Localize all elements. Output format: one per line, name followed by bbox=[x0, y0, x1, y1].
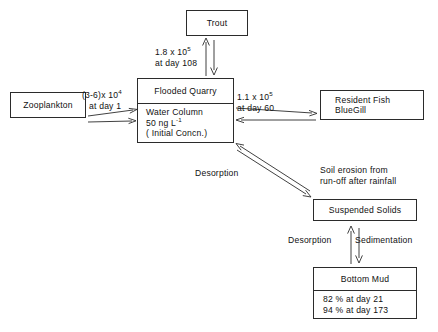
flux-label-trout-day: at day 108 bbox=[155, 58, 197, 69]
node-zooplankton-label: Zooplankton bbox=[11, 93, 85, 117]
flux-label-trout-value: 1.8 x 105 bbox=[155, 47, 197, 58]
node-zooplankton[interactable]: Zooplankton bbox=[10, 92, 86, 118]
flux-label-resident-fish: 1.1 x 105 at day 60 bbox=[237, 92, 274, 114]
flux-trout-prefix: 1.8 x 10 bbox=[155, 47, 187, 57]
node-bottom-mud-header: Bottom Mud bbox=[314, 268, 416, 290]
flux-resident-fish-prefix: 1.1 x 10 bbox=[237, 92, 269, 102]
quarry-body-line-1: Water Column bbox=[146, 107, 203, 117]
flux-trout-exponent: 5 bbox=[187, 45, 191, 52]
flux-label-zooplankton-day: at day 1 bbox=[82, 101, 122, 112]
arrow-zooplankton-to-quarry-lower bbox=[88, 118, 136, 123]
bottom-mud-line-2: 94 % at day 173 bbox=[323, 305, 388, 315]
node-bottom-mud-body: 82 % at day 21 94 % at day 173 bbox=[314, 290, 416, 318]
flux-resident-fish-exponent: 5 bbox=[269, 90, 273, 97]
resident-fish-line-2: BlueGill bbox=[335, 105, 366, 115]
node-resident-fish[interactable]: Resident Fish BlueGill bbox=[320, 90, 424, 120]
node-suspended-solids-label: Suspended Solids bbox=[314, 200, 416, 220]
arrow-trout-to-quarry bbox=[211, 40, 218, 75]
node-flooded-quarry-header: Flooded Quarry bbox=[138, 79, 233, 103]
flux-label-desorption-vertical: Desorption bbox=[288, 235, 332, 246]
arrow-bottom-mud-to-suspended-solids bbox=[348, 226, 355, 264]
node-bottom-mud[interactable]: Bottom Mud 82 % at day 21 94 % at day 17… bbox=[313, 267, 417, 319]
quarry-body-line-2: 50 ng L-1 bbox=[146, 118, 182, 128]
node-trout[interactable]: Trout bbox=[186, 10, 248, 36]
flux-label-resident-fish-value: 1.1 x 105 bbox=[237, 92, 274, 103]
flux-label-sedimentation-vertical: Sedimentation bbox=[355, 235, 413, 246]
flux-label-trout: 1.8 x 105 at day 108 bbox=[155, 47, 197, 69]
resident-fish-line-1: Resident Fish bbox=[335, 95, 390, 105]
arrow-suspended-solids-to-quarry bbox=[236, 144, 310, 192]
soil-erosion-line-1: Soil erosion from bbox=[320, 165, 396, 176]
arrow-resident-fish-to-quarry bbox=[236, 117, 316, 122]
flux-label-desorption-diagonal: Desorption bbox=[195, 168, 239, 179]
quarry-concentration-exponent: -1 bbox=[176, 116, 182, 123]
node-flooded-quarry-body: Water Column 50 ng L-1 ( Initial Concn.) bbox=[138, 103, 233, 142]
arrow-quarry-to-suspended-solids bbox=[237, 150, 311, 197]
node-resident-fish-body: Resident Fish BlueGill bbox=[321, 91, 423, 119]
quarry-body-line-3: ( Initial Concn.) bbox=[146, 128, 207, 138]
bottom-mud-line-1: 82 % at day 21 bbox=[323, 294, 383, 304]
node-flooded-quarry[interactable]: Flooded Quarry Water Column 50 ng L-1 ( … bbox=[137, 78, 234, 143]
flux-zooplankton-exponent: 4 bbox=[118, 88, 122, 95]
flux-zooplankton-prefix: (3-6)x 10 bbox=[82, 90, 118, 100]
node-suspended-solids[interactable]: Suspended Solids bbox=[313, 199, 417, 221]
diagram-canvas: Trout Flooded Quarry Water Column 50 ng … bbox=[0, 0, 438, 332]
flux-label-zooplankton: (3-6)x 104 at day 1 bbox=[82, 90, 122, 112]
flux-label-resident-fish-day: at day 60 bbox=[237, 103, 274, 114]
node-trout-label: Trout bbox=[187, 11, 247, 35]
quarry-concentration-value: 50 ng L bbox=[146, 118, 176, 128]
flux-label-soil-erosion: Soil erosion from run-off after rainfall bbox=[320, 165, 396, 187]
flux-label-zooplankton-value: (3-6)x 104 bbox=[82, 90, 122, 101]
soil-erosion-line-2: run-off after rainfall bbox=[320, 176, 396, 187]
arrow-quarry-to-trout bbox=[203, 38, 210, 76]
